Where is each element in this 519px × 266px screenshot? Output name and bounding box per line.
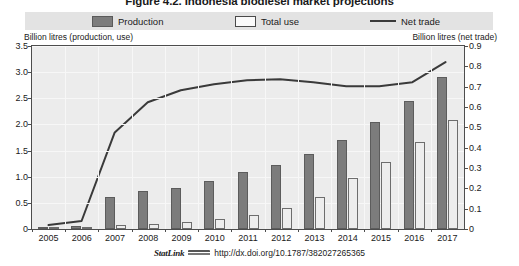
- gridline-horizontal: [32, 151, 464, 152]
- bar-total-use: [49, 227, 59, 229]
- x-axis-tick-label: 2013: [304, 233, 324, 243]
- bar-total-use: [348, 178, 358, 229]
- production-swatch-icon: [92, 16, 113, 27]
- x-axis-tick-label: 2005: [39, 233, 59, 243]
- gridline-vertical: [165, 46, 166, 229]
- right-axis-caption: Billion litres (net trade): [412, 32, 497, 42]
- y2-axis-tick-label: 0.6: [469, 102, 482, 112]
- x-axis-tick: [331, 229, 332, 232]
- legend-label-net-trade: Net trade: [401, 16, 440, 27]
- y-axis-tick-label: 3.5: [15, 41, 28, 51]
- bar-total-use: [282, 208, 292, 229]
- y-axis-tick: [28, 203, 32, 204]
- gridline-vertical: [132, 46, 133, 229]
- y2-axis-tick: [464, 148, 468, 149]
- y2-axis-tick: [464, 127, 468, 128]
- y2-axis-tick: [464, 168, 468, 169]
- bar-total-use: [381, 162, 391, 229]
- y-axis-tick-label: 2.0: [15, 119, 28, 129]
- gridline-vertical: [265, 46, 266, 229]
- bar-total-use: [116, 225, 126, 229]
- gridline-horizontal: [32, 98, 464, 99]
- y-axis-tick-label: 2.5: [15, 93, 28, 103]
- y2-axis-tick-label: 0.9: [469, 41, 482, 51]
- total-use-swatch-icon: [235, 16, 256, 27]
- legend-item-total-use: Total use: [235, 14, 299, 28]
- bar-production: [171, 188, 181, 229]
- bar-production: [204, 181, 214, 229]
- x-axis-tick-label: 2014: [338, 233, 358, 243]
- y2-axis-tick-label: 0.3: [469, 163, 482, 173]
- x-axis-tick-label: 2006: [72, 233, 92, 243]
- y2-axis-tick: [464, 87, 468, 88]
- bar-production: [238, 172, 248, 230]
- x-axis-tick: [32, 229, 33, 232]
- gridline-vertical: [65, 46, 66, 229]
- statlink-label: StatLink: [154, 248, 184, 258]
- statlink-url[interactable]: http://dx.doi.org/10.1787/382027265365: [214, 248, 365, 258]
- x-axis-tick: [198, 229, 199, 232]
- gridline-horizontal: [32, 177, 464, 178]
- y-axis-tick-label: 1.5: [15, 146, 28, 156]
- net-trade-line: [32, 46, 464, 229]
- y-axis-tick: [28, 72, 32, 73]
- bar-total-use: [182, 222, 192, 229]
- x-axis-tick: [298, 229, 299, 232]
- x-axis-tick-label: 2008: [138, 233, 158, 243]
- x-axis-tick: [398, 229, 399, 232]
- x-axis-tick-label: 2007: [105, 233, 125, 243]
- x-axis-tick: [165, 229, 166, 232]
- bar-production: [38, 227, 48, 229]
- bar-total-use: [249, 215, 259, 229]
- y-axis-tick: [28, 177, 32, 178]
- x-axis-tick-label: 2015: [371, 233, 391, 243]
- gridline-vertical: [231, 46, 232, 229]
- gridline-vertical: [98, 46, 99, 229]
- bar-total-use: [215, 219, 225, 229]
- x-axis-tick-label: 2016: [404, 233, 424, 243]
- gridline-horizontal: [32, 72, 464, 73]
- y-axis-tick: [28, 151, 32, 152]
- x-axis-tick-label: 2017: [437, 233, 457, 243]
- gridline-vertical: [331, 46, 332, 229]
- x-axis-tick: [364, 229, 365, 232]
- x-axis-tick: [98, 229, 99, 232]
- bar-total-use: [415, 142, 425, 229]
- gridline-horizontal: [32, 124, 464, 125]
- x-axis-tick-label: 2011: [238, 233, 257, 243]
- legend-label-production: Production: [118, 16, 163, 27]
- x-axis-tick-label: 2010: [205, 233, 225, 243]
- chart-legend: Production Total use Net trade: [25, 12, 493, 30]
- bar-production: [337, 140, 347, 229]
- gridline-vertical: [431, 46, 432, 229]
- figure-footer: StatLink http://dx.doi.org/10.1787/38202…: [0, 248, 519, 258]
- figure-container: Figure 4.2. Indonesia biodiesel market p…: [0, 0, 519, 266]
- y2-axis-tick: [464, 107, 468, 108]
- x-axis-tick: [132, 229, 133, 232]
- bar-production: [404, 101, 414, 229]
- y2-axis-tick: [464, 66, 468, 67]
- y-axis-tick-label: 1.0: [15, 172, 28, 182]
- net-trade-line-icon: [370, 20, 396, 22]
- figure-title: Figure 4.2. Indonesia biodiesel market p…: [0, 0, 519, 7]
- x-axis-tick-label: 2012: [271, 233, 291, 243]
- y2-axis-tick-label: 0: [469, 224, 474, 234]
- bar-production: [271, 165, 281, 229]
- y2-axis-tick-label: 0.8: [469, 61, 482, 71]
- y2-axis-tick-label: 0.4: [469, 143, 482, 153]
- x-axis-tick: [231, 229, 232, 232]
- statlink-icon: [188, 250, 210, 257]
- gridline-horizontal: [32, 46, 464, 47]
- y2-axis-tick-label: 0.5: [469, 122, 482, 132]
- y2-axis-tick: [464, 46, 468, 47]
- bar-production: [304, 154, 314, 229]
- bar-total-use: [82, 227, 92, 229]
- y-axis-tick-label: 3.0: [15, 67, 28, 77]
- y2-axis-tick-label: 0.1: [469, 204, 482, 214]
- y2-axis-tick-label: 0.7: [469, 82, 482, 92]
- bar-production: [105, 197, 115, 229]
- x-axis-tick: [265, 229, 266, 232]
- left-axis-caption: Billion litres (production, use): [24, 32, 133, 42]
- bar-total-use: [149, 224, 159, 229]
- bar-production: [71, 226, 81, 229]
